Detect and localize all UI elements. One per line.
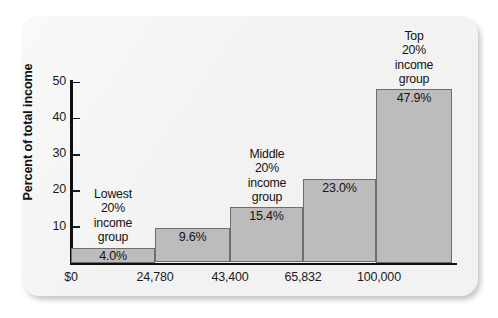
chart-figure: 50 40 30 20 10 Percent of total income 4… [0, 0, 498, 318]
figure-card-surface [22, 16, 478, 296]
figure-card [22, 16, 478, 296]
